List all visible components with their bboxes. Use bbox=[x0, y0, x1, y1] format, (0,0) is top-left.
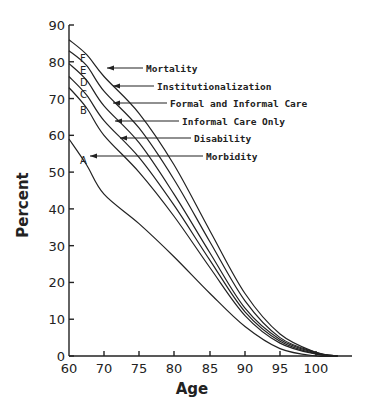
x-tick-label: 70 bbox=[96, 361, 113, 376]
curve-morbidity bbox=[69, 139, 338, 357]
annotation-label: Morbidity bbox=[206, 151, 258, 162]
curve-letter-b: B bbox=[80, 105, 87, 116]
curve-letter-e: E bbox=[80, 65, 86, 76]
annotation-label: Informal Care Only bbox=[182, 116, 285, 127]
x-tick-label: 75 bbox=[131, 361, 148, 376]
x-tick-label: 95 bbox=[272, 361, 289, 376]
y-tick-label: 90 bbox=[48, 18, 65, 33]
axes: 010203040506070809060707580859095100 bbox=[48, 18, 352, 376]
x-tick-label: 90 bbox=[237, 361, 254, 376]
y-tick-label: 60 bbox=[48, 128, 65, 143]
x-tick-label: 100 bbox=[304, 361, 329, 376]
annotation-label: Formal and Informal Care bbox=[170, 98, 308, 109]
annotation-informal-care-only: Informal Care Only bbox=[115, 116, 285, 127]
annotation-morbidity: Morbidity bbox=[90, 151, 258, 162]
annotation-formal-and-informal-care: Formal and Informal Care bbox=[113, 98, 308, 109]
annotation-disability: Disability bbox=[120, 133, 251, 144]
arrow-head-icon bbox=[107, 66, 114, 71]
annotation-mortality: Mortality bbox=[107, 63, 198, 74]
arrow-head-icon bbox=[90, 154, 97, 159]
y-tick-label: 40 bbox=[48, 202, 65, 217]
annotations: MortalityInstitutionalizationFormal and … bbox=[90, 63, 308, 162]
curve-letter-f: F bbox=[80, 53, 86, 64]
x-tick-label: 80 bbox=[166, 361, 183, 376]
x-tick-label: 60 bbox=[61, 361, 78, 376]
annotation-institutionalization: Institutionalization bbox=[113, 81, 271, 92]
chart: 010203040506070809060707580859095100 FED… bbox=[0, 0, 370, 417]
curve-letter-a: A bbox=[80, 155, 87, 166]
annotation-label: Institutionalization bbox=[157, 81, 271, 92]
curve-letter-c: C bbox=[80, 89, 87, 100]
y-tick-label: 30 bbox=[48, 239, 65, 254]
y-tick-label: 20 bbox=[48, 275, 65, 290]
curve-disability bbox=[69, 88, 338, 356]
y-tick-label: 50 bbox=[48, 165, 65, 180]
x-axis-title: Age bbox=[176, 380, 209, 398]
y-tick-label: 80 bbox=[48, 55, 65, 70]
curve-letter-d: D bbox=[80, 77, 88, 88]
arrow-head-icon bbox=[120, 136, 127, 141]
y-axis-title: Percent bbox=[14, 172, 32, 237]
y-tick-label: 70 bbox=[48, 92, 65, 107]
y-tick-label: 10 bbox=[48, 312, 65, 327]
arrow-head-icon bbox=[113, 84, 120, 89]
annotation-label: Mortality bbox=[146, 63, 198, 74]
x-tick-label: 85 bbox=[202, 361, 219, 376]
annotation-label: Disability bbox=[194, 133, 251, 144]
